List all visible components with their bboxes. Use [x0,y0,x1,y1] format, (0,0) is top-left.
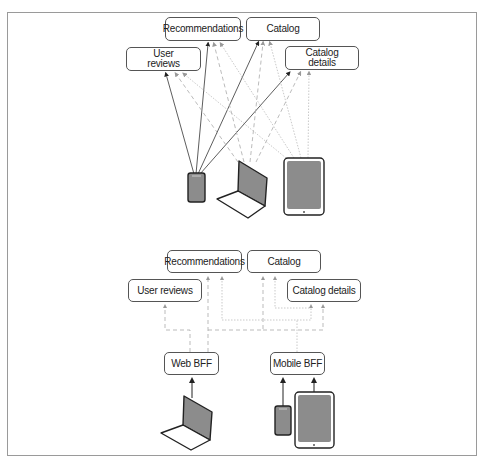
bottom-user-reviews-label: User reviews [137,286,192,296]
top-catalog-label: Catalog [266,24,299,34]
top-recommendations-label: Recommendations [163,24,243,34]
top-laptop-icon [217,161,267,218]
bottom-recommendations-label: Recommendations [164,257,244,267]
top-phone-icon [188,173,205,202]
top-recommendations-service: Recommendations [165,17,241,41]
bottom-recommendations-service: Recommendations [167,250,242,273]
web-bff-box: Web BFF [164,352,219,375]
top-catalog-details-label: Catalog details [305,48,338,68]
bottom-laptop-icon [161,396,212,450]
top-catalog-service: Catalog [246,17,320,41]
top-user-reviews-service: User reviews [126,47,201,71]
mobile-bff-label: Mobile BFF [273,359,322,369]
bottom-catalog-service: Catalog [247,250,321,273]
bottom-catalog-details-label: Catalog details [292,286,355,296]
bottom-catalog-details-service: Catalog details [287,279,361,302]
diagram-canvas [0,0,483,462]
web-bff-label: Web BFF [171,359,212,369]
top-catalog-details-service: Catalog details [285,46,359,70]
bottom-user-reviews-service: User reviews [128,279,202,302]
bottom-tablet-icon [295,392,334,448]
top-user-reviews-label: User reviews [147,49,180,69]
mobile-bff-box: Mobile BFF [270,352,325,375]
bottom-catalog-label: Catalog [267,257,300,267]
top-tablet-icon [284,158,324,215]
bottom-phone-icon [275,406,291,435]
